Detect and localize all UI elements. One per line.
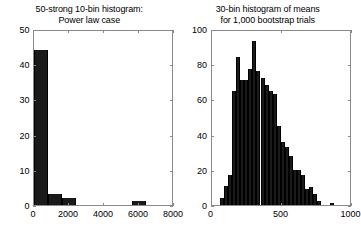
- x-axis-tick-mark-top: [33, 30, 34, 33]
- y-axis-tick-mark-right: [348, 171, 351, 172]
- y-axis-tick-label: 60: [197, 95, 207, 105]
- x-axis-tick-label: 4000: [93, 209, 113, 219]
- x-axis-tick-mark: [33, 203, 34, 206]
- histogram-bar: [34, 50, 48, 205]
- y-axis-tick-label: 40: [197, 131, 207, 141]
- x-axis-tick-mark: [281, 203, 282, 206]
- y-axis-tick-label: 20: [19, 131, 29, 141]
- y-axis-tick-mark: [33, 206, 36, 207]
- left-title-line1: 50-strong 10-bin histogram:: [36, 4, 143, 14]
- x-axis-tick-mark-top: [173, 30, 174, 33]
- y-axis-tick-mark: [33, 65, 36, 66]
- y-axis-tick-mark-right: [170, 100, 173, 101]
- y-axis-tick-label: 30: [19, 95, 29, 105]
- x-axis-tick-mark: [173, 203, 174, 206]
- y-axis-tick-label: 100: [192, 25, 207, 35]
- y-axis-tick-label: 0: [202, 201, 207, 211]
- y-axis-tick-label: 10: [19, 166, 29, 176]
- x-axis-tick-mark: [103, 203, 104, 206]
- x-axis-tick-mark-top: [103, 30, 104, 33]
- y-axis-tick-mark: [211, 206, 214, 207]
- right-chart-title: 30-bin histogram of meansfor 1,000 boots…: [179, 4, 358, 26]
- y-axis-tick-mark-right: [170, 65, 173, 66]
- x-axis-tick-label: 1000: [340, 209, 360, 219]
- x-axis-tick-mark-top: [68, 30, 69, 33]
- y-axis-tick-mark: [33, 100, 36, 101]
- x-axis-tick-mark-top: [351, 30, 352, 33]
- histogram-bar: [48, 194, 62, 205]
- right-title-line2: for 1,000 bootstrap trials: [221, 15, 315, 25]
- x-axis-tick-label: 0: [30, 209, 35, 219]
- left-chart-title: 50-strong 10-bin histogram:Power law cas…: [0, 4, 179, 26]
- x-axis-tick-mark: [68, 203, 69, 206]
- histogram-bar: [330, 203, 334, 205]
- right-panel: 30-bin histogram of meansfor 1,000 boots…: [179, 0, 358, 243]
- histogram-bar: [62, 198, 76, 205]
- x-axis-tick-mark: [351, 203, 352, 206]
- y-axis-tick-mark-right: [348, 206, 351, 207]
- x-axis-tick-mark-top: [281, 30, 282, 33]
- y-axis-tick-mark-right: [170, 206, 173, 207]
- y-axis-tick-mark-right: [348, 65, 351, 66]
- y-axis-tick-mark: [211, 136, 214, 137]
- right-title-line1: 30-bin histogram of means: [216, 4, 320, 14]
- y-axis-tick-mark: [33, 136, 36, 137]
- right-plot-area: [211, 30, 351, 206]
- left-panel: 50-strong 10-bin histogram:Power law cas…: [0, 0, 179, 243]
- histogram-bar: [317, 201, 321, 205]
- x-axis-tick-mark-top: [211, 30, 212, 33]
- x-axis-tick-mark: [138, 203, 139, 206]
- y-axis-tick-mark-right: [170, 171, 173, 172]
- y-axis-tick-mark-right: [348, 136, 351, 137]
- y-axis-tick-label: 40: [19, 60, 29, 70]
- x-axis-tick-mark-top: [138, 30, 139, 33]
- x-axis-tick-label: 6000: [128, 209, 148, 219]
- y-axis-tick-label: 50: [19, 25, 29, 35]
- x-axis-tick-label: 500: [273, 209, 288, 219]
- y-axis-tick-label: 80: [197, 60, 207, 70]
- y-axis-tick-mark: [211, 100, 214, 101]
- y-axis-tick-label: 0: [24, 201, 29, 211]
- histogram-bar: [132, 201, 146, 205]
- x-axis-tick-label: 0: [208, 209, 213, 219]
- y-axis-tick-mark: [211, 171, 214, 172]
- left-plot-area: [33, 30, 173, 206]
- x-axis-tick-mark: [211, 203, 212, 206]
- right-bars-container: [212, 31, 350, 205]
- x-axis-tick-label: 2000: [58, 209, 78, 219]
- left-title-line2: Power law case: [58, 15, 120, 25]
- y-axis-tick-mark-right: [348, 100, 351, 101]
- y-axis-tick-mark-right: [170, 136, 173, 137]
- left-bars-container: [34, 31, 172, 205]
- y-axis-tick-label: 20: [197, 166, 207, 176]
- y-axis-tick-mark: [33, 171, 36, 172]
- y-axis-tick-mark: [211, 65, 214, 66]
